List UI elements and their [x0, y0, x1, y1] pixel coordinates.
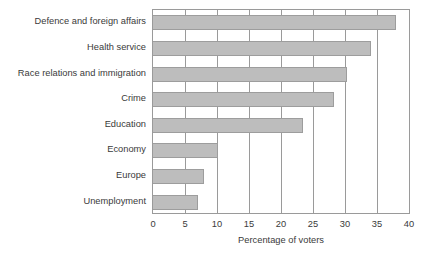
x-axis-tick-labels: 0510152025303540: [152, 218, 410, 231]
bar: [153, 118, 303, 133]
bar: [153, 169, 204, 184]
bar: [153, 67, 347, 82]
category-label: Education: [0, 119, 146, 130]
category-label: Defence and foreign affairs: [0, 16, 146, 27]
bar-row: [153, 41, 371, 56]
category-label: Unemployment: [0, 196, 146, 207]
x-tick-label: 35: [372, 218, 382, 230]
gridline: [409, 10, 410, 213]
x-tick-label: 40: [404, 218, 414, 230]
x-tick-label: 0: [150, 218, 155, 230]
plot-area: [152, 9, 410, 214]
bar-row: [153, 118, 303, 133]
bar: [153, 15, 396, 30]
category-label: Economy: [0, 144, 146, 155]
category-label: Race relations and immigration: [0, 68, 146, 79]
bar-row: [153, 67, 347, 82]
category-label: Health service: [0, 42, 146, 53]
bar-row: [153, 143, 218, 158]
bar: [153, 92, 334, 107]
x-tick-label: 10: [212, 218, 222, 230]
x-tick-label: 15: [244, 218, 254, 230]
bar-row: [153, 195, 198, 210]
x-tick-label: 30: [340, 218, 350, 230]
x-axis-title: Percentage of voters: [152, 235, 410, 245]
category-axis-labels: Defence and foreign affairsHealth servic…: [0, 9, 146, 214]
bars-layer: [153, 10, 409, 213]
bar-row: [153, 92, 334, 107]
x-tick-label: 25: [308, 218, 318, 230]
bar: [153, 41, 371, 56]
bar-row: [153, 169, 204, 184]
bar: [153, 143, 218, 158]
bar: [153, 195, 198, 210]
x-tick-label: 20: [276, 218, 286, 230]
bar-chart: Defence and foreign affairsHealth servic…: [0, 0, 431, 263]
x-tick-label: 5: [182, 218, 187, 230]
bar-row: [153, 15, 396, 30]
category-label: Crime: [0, 93, 146, 104]
category-label: Europe: [0, 170, 146, 181]
